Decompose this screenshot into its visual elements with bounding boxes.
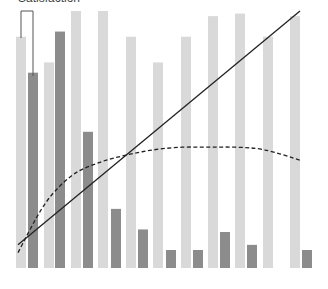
bar-light xyxy=(126,37,136,268)
bar-dark xyxy=(166,250,176,268)
bar-dark xyxy=(111,209,121,268)
bar-dark xyxy=(138,229,148,268)
bar-dark xyxy=(193,250,203,268)
bar-light xyxy=(263,37,273,268)
bar-light xyxy=(290,16,300,268)
bar-light xyxy=(181,37,191,268)
bar-dark xyxy=(247,245,257,268)
bar-dark xyxy=(302,250,312,268)
chart: Satisfaction xyxy=(0,0,328,289)
bar-dark xyxy=(28,73,38,268)
bar-light xyxy=(235,14,245,268)
bar-light xyxy=(44,62,54,268)
bar-light xyxy=(208,16,218,268)
bar-light xyxy=(153,62,163,268)
bar-dark xyxy=(55,32,65,268)
bar-light xyxy=(98,11,108,268)
bar-light xyxy=(71,11,81,268)
bar-light xyxy=(16,37,26,268)
bar-dark xyxy=(83,132,93,268)
bar-dark xyxy=(220,232,230,268)
plot-area xyxy=(0,0,328,289)
